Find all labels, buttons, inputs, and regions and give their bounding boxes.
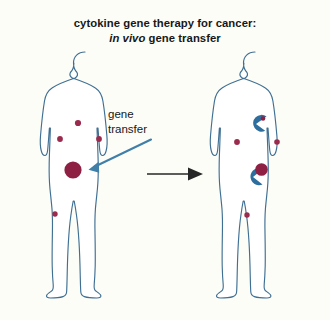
process-arrow [147,168,203,181]
engulfed-tumor-dot [261,116,266,121]
title-line-1: cytokine gene therapy for cancer: [74,17,256,29]
engulfed-large-tumor [255,163,268,176]
diagram-title: cytokine gene therapy for cancer: in viv… [0,16,330,46]
small-tumor-dot [52,211,57,216]
title-line-2: in vivo gene transfer [0,31,330,46]
annotation-line-1: gene [108,107,188,122]
body-silhouette-right [210,52,277,298]
small-tumor-dot [274,139,280,145]
diagram-canvas [0,0,330,320]
title-italic-term: in vivo [109,32,145,44]
small-tumor-dot [234,139,240,145]
treated-patient-figure [210,52,280,298]
large-tumor [64,161,81,178]
untreated-patient-figure [40,52,107,298]
gene-transfer-annotation: gene transfer [108,107,188,136]
small-tumor-dot [244,212,249,217]
small-tumor-dot [57,136,63,142]
annotation-line-2: transfer [108,122,188,137]
small-tumor-dot [96,136,102,142]
title-line-2-rest: gene transfer [145,32,220,44]
small-tumor-dot [75,120,81,126]
